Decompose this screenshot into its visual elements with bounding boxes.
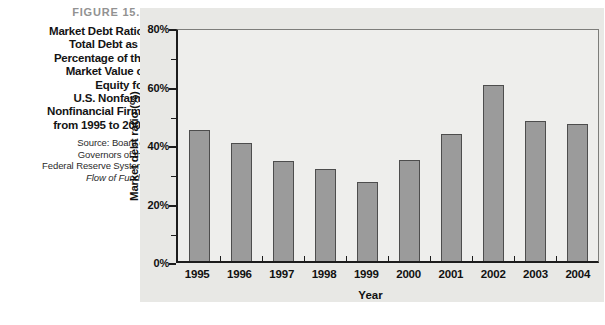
y-major-tick [169,88,176,90]
x-tick-labels: 1995199619971998199920002001200220032004 [176,268,599,280]
x-tick-label: 2002 [472,268,514,280]
x-minor-tick [556,256,557,261]
y-tick-label: 80% [140,23,169,35]
y-tick-label: 20% [140,199,169,211]
x-tick-label: 1998 [303,268,345,280]
figure-caption: FIGURE 15.5 Market Debt Ratio: Total Deb… [0,6,147,184]
x-tick-label: 1999 [345,268,387,280]
bar-1999 [357,182,378,261]
x-tick-label: 2001 [430,268,472,280]
figure-source: Source: Board of Governors of the Federa… [0,137,147,183]
x-tick-label: 2000 [388,268,430,280]
y-major-tick [169,29,176,31]
plot-area [176,29,599,263]
x-minor-tick [346,256,347,261]
x-minor-tick [514,256,515,261]
y-minor-tick [171,59,176,60]
x-tick-label: 2004 [557,268,599,280]
x-minor-tick [262,256,263,261]
y-major-tick [169,146,176,148]
bars-container [178,30,598,261]
textbook-figure-page: FIGURE 15.5 Market Debt Ratio: Total Deb… [0,0,605,325]
figure-source-publication: Flow of Funds. [0,172,147,184]
y-tick-label: 40% [140,140,169,152]
y-major-tick [169,205,176,207]
y-major-tick [169,263,176,265]
bar-2004 [567,124,588,261]
x-tick-label: 1995 [176,268,218,280]
x-minor-tick [388,256,389,261]
x-axis-title: Year [159,289,582,301]
y-tick-label: 60% [140,82,169,94]
bar-1996 [231,143,252,261]
bar-1997 [273,161,294,261]
y-tick-label: 0% [140,257,169,269]
figure-number: FIGURE 15.5 [0,6,147,18]
x-minor-tick [304,256,305,261]
x-minor-tick [220,256,221,261]
x-tick-label: 1996 [218,268,260,280]
y-axis-title: Market debt ratio (%) [128,29,140,263]
bar-1995 [189,130,210,261]
bar-2003 [525,121,546,261]
x-minor-tick [430,256,431,261]
figure-title: Market Debt Ratio: Total Debt as a Perce… [0,25,147,132]
x-tick-label: 2003 [515,268,557,280]
bar-chart: Market debt ratio (%) 199519961997199819… [140,8,604,302]
bar-2000 [399,160,420,261]
x-tick-label: 1997 [261,268,303,280]
bar-2002 [483,85,504,261]
y-minor-tick [171,235,176,236]
y-minor-tick [171,176,176,177]
x-minor-tick [472,256,473,261]
y-minor-tick [171,118,176,119]
bar-2001 [441,134,462,261]
bar-1998 [315,169,336,261]
